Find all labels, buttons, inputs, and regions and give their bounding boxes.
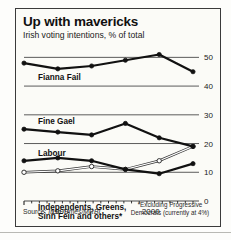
- data-point-marker: [22, 127, 26, 131]
- data-point-marker: [191, 144, 195, 148]
- data-point-marker: [157, 136, 161, 140]
- chart-page: Up with mavericks Irish voting intention…: [0, 0, 231, 240]
- data-point-marker: [191, 70, 195, 74]
- y-axis-tick-label: 10: [204, 168, 213, 177]
- data-point-marker: [157, 159, 161, 163]
- chart-frame: Up with mavericks Irish voting intention…: [15, 8, 221, 227]
- line-chart-plot: 0102030405019992000Fianna FailFine GaelL…: [16, 9, 222, 228]
- source-note: Source: Irish Times/MRBI: [23, 208, 100, 215]
- data-point-marker: [56, 130, 60, 134]
- series-label-fianna_fail: Fianna Fail: [38, 73, 81, 82]
- series-label-labour: Labour: [38, 149, 67, 158]
- data-point-marker: [123, 121, 127, 125]
- data-point-marker: [90, 64, 94, 68]
- data-point-marker: [123, 167, 127, 171]
- data-point-marker: [90, 133, 94, 137]
- y-axis-tick-label: 50: [204, 53, 213, 62]
- data-point-marker: [22, 170, 26, 174]
- data-point-marker: [157, 172, 161, 176]
- data-point-marker: [56, 169, 60, 173]
- data-point-marker: [191, 162, 195, 166]
- source-prefix: Source:: [23, 208, 48, 215]
- y-axis-tick-label: 30: [204, 111, 213, 120]
- y-axis-tick-label: 40: [204, 82, 213, 91]
- source-name: Irish Times/MRBI: [48, 208, 100, 215]
- data-point-marker: [22, 61, 26, 65]
- series-line: [24, 123, 193, 146]
- data-point-marker: [123, 58, 127, 62]
- series-label-fine_gael: Fine Gael: [38, 117, 75, 126]
- footnote-note: *Excluding Progressive Democrats (curren…: [124, 201, 216, 216]
- data-point-marker: [157, 52, 161, 56]
- data-point-marker: [89, 164, 93, 168]
- data-point-marker: [56, 67, 60, 71]
- data-point-marker: [90, 159, 94, 163]
- y-axis-tick-label: 20: [204, 140, 213, 149]
- data-point-marker: [22, 159, 26, 163]
- page-divider: [0, 232, 231, 233]
